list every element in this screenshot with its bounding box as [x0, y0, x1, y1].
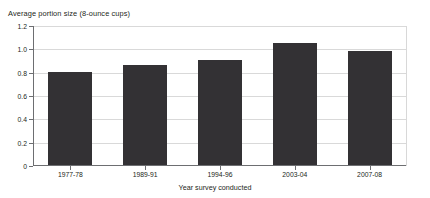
chart-title: Average portion size (8-ounce cups)	[8, 9, 130, 18]
x-axis-category-label: 1994-96	[208, 171, 233, 178]
bar	[348, 51, 392, 165]
x-axis-category-label: 1977-78	[58, 171, 83, 178]
y-axis-tick-label: 1.2	[18, 23, 27, 30]
x-axis-tick-mark	[370, 166, 371, 170]
y-axis-tick-mark	[29, 143, 33, 144]
y-axis-tick-mark	[29, 166, 33, 167]
y-axis-tick-label: 0	[23, 163, 27, 170]
x-axis-category-label: 1989-91	[133, 171, 158, 178]
y-axis-tick-label: 0.6	[18, 93, 27, 100]
gridline	[33, 26, 407, 27]
y-axis-tick-mark	[29, 26, 33, 27]
x-axis-tick-mark	[295, 166, 296, 170]
x-axis-category-label: 2007-08	[357, 171, 382, 178]
y-axis-tick-mark	[29, 119, 33, 120]
y-axis-tick-label: 0.4	[18, 116, 27, 123]
x-axis-tick-mark	[220, 166, 221, 170]
y-axis-spine	[33, 26, 34, 166]
y-axis-tick-label: 0.8	[18, 69, 27, 76]
x-axis-tick-mark	[70, 166, 71, 170]
plot-right-border	[406, 26, 407, 166]
bar	[123, 65, 167, 165]
x-axis-category-label: 2003-04	[282, 171, 307, 178]
y-axis-tick-mark	[29, 73, 33, 74]
y-axis-tick-mark	[29, 49, 33, 50]
y-axis-tick-label: 0.2	[18, 139, 27, 146]
bar-chart-figure: Average portion size (8-ounce cups) 00.2…	[0, 0, 430, 198]
x-axis-title: Year survey conducted	[0, 183, 430, 192]
y-axis-tick-mark	[29, 96, 33, 97]
bar	[273, 43, 317, 166]
plot-area: 00.20.40.60.81.01.2	[33, 26, 407, 166]
y-axis-tick-label: 1.0	[18, 46, 27, 53]
bar	[48, 72, 92, 165]
bar	[198, 60, 242, 165]
x-axis-tick-mark	[145, 166, 146, 170]
